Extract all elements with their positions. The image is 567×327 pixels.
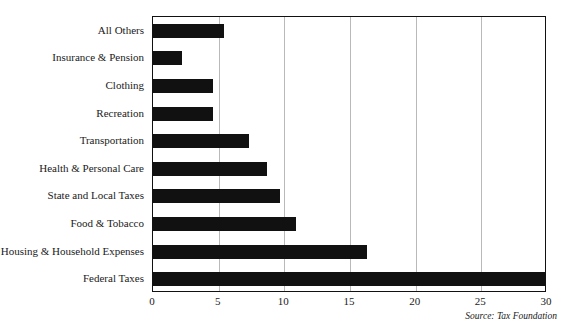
bar-chart-figure: All OthersInsurance & PensionClothingRec… [0, 0, 567, 327]
x-axis-tick-label: 5 [215, 294, 221, 308]
x-axis-tick-labels: 051015202530 [0, 294, 567, 310]
bar-row [153, 134, 545, 148]
bar-row [153, 245, 545, 259]
y-axis-category-labels: All OthersInsurance & PensionClothingRec… [0, 16, 148, 292]
chart-title [8, 0, 438, 5]
x-axis-tick-label: 15 [344, 294, 355, 308]
bar [153, 272, 546, 286]
plot-area [152, 16, 546, 292]
y-axis-label: Transportation [80, 134, 144, 146]
y-axis-label: All Others [98, 24, 144, 36]
bar-row [153, 217, 545, 231]
x-axis-tick-label: 10 [278, 294, 289, 308]
bar-row [153, 272, 545, 286]
bar-row [153, 189, 545, 203]
y-axis-label: Insurance & Pension [52, 51, 144, 63]
bar [153, 134, 249, 148]
y-axis-label: Housing & Household Expenses [1, 245, 144, 257]
bar [153, 162, 267, 176]
bar-row [153, 79, 545, 93]
y-axis-label: Federal Taxes [83, 272, 144, 284]
x-axis-tick-label: 0 [149, 294, 155, 308]
bar [153, 107, 213, 121]
source-note: Source: Tax Foundation [465, 311, 557, 321]
y-axis-label: Clothing [105, 79, 144, 91]
bar-row [153, 107, 545, 121]
x-axis-tick-label: 20 [409, 294, 420, 308]
x-axis-tick-label: 25 [475, 294, 486, 308]
bar [153, 79, 213, 93]
y-axis-label: Food & Tobacco [70, 217, 144, 229]
bar [153, 24, 224, 38]
y-axis-label: State and Local Taxes [48, 189, 144, 201]
bar [153, 51, 182, 65]
bar [153, 189, 280, 203]
y-axis-label: Health & Personal Care [39, 162, 144, 174]
bar-row [153, 162, 545, 176]
bar-row [153, 24, 545, 38]
bar-row [153, 51, 545, 65]
bar [153, 217, 296, 231]
bars-layer [153, 17, 545, 291]
bar [153, 245, 367, 259]
y-axis-label: Recreation [96, 107, 144, 119]
x-axis-tick-label: 30 [541, 294, 552, 308]
